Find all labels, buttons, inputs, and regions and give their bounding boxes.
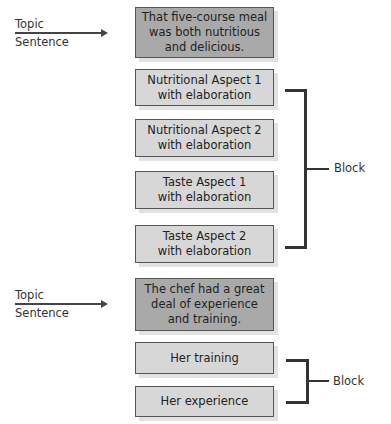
box-text-line: Taste Aspect 1 <box>158 175 252 190</box>
arrow-icon <box>15 303 102 305</box>
support-box-experience: Her experience <box>135 386 274 417</box>
box-text-line: deal of experience <box>145 297 265 312</box>
box-text-line: with elaboration <box>147 138 261 153</box>
box-text-line: That five-course meal <box>142 10 267 25</box>
topic-label-line: Topic <box>15 17 69 31</box>
bracket-tick <box>306 168 329 170</box>
block-label-1: Block <box>334 161 365 175</box>
topic-label-line: Sentence <box>15 306 69 320</box>
arrow-icon <box>15 32 102 34</box>
block-label-2: Block <box>333 374 364 388</box>
support-box-training: Her training <box>135 342 274 374</box>
box-text-line: and delicious. <box>142 40 267 55</box>
topic-label-line: Topic <box>15 288 69 302</box>
support-box-taste-1: Taste Aspect 1 with elaboration <box>135 171 274 209</box>
box-text-line: Her experience <box>161 394 249 409</box>
box-text-line: with elaboration <box>147 88 261 103</box>
topic-label-line: Sentence <box>15 35 69 49</box>
bracket-icon <box>286 359 309 404</box>
box-text-line: and training. <box>145 312 265 327</box>
box-text-line: Her training <box>170 351 239 366</box>
box-text-line: Nutritional Aspect 2 <box>147 123 261 138</box>
box-text-line: was both nutritious <box>142 25 267 40</box>
support-box-nutritional-1: Nutritional Aspect 1 with elaboration <box>135 69 274 106</box>
topic-sentence-box-1: That five-course meal was both nutritiou… <box>135 7 274 58</box>
bracket-tick <box>308 380 329 382</box>
box-text-line: with elaboration <box>158 190 252 205</box>
box-text-line: Nutritional Aspect 1 <box>147 73 261 88</box>
bracket-icon <box>285 89 307 249</box>
box-text-line: with elaboration <box>158 244 252 259</box>
topic-sentence-box-2: The chef had a great deal of experience … <box>135 278 274 331</box>
support-box-nutritional-2: Nutritional Aspect 2 with elaboration <box>135 119 274 157</box>
box-text-line: Taste Aspect 2 <box>158 229 252 244</box>
box-text-line: The chef had a great <box>145 282 265 297</box>
support-box-taste-2: Taste Aspect 2 with elaboration <box>135 225 274 263</box>
